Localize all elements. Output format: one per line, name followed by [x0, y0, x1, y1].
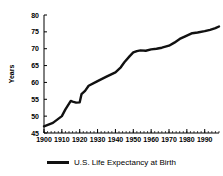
legend-line-swatch-icon	[47, 161, 69, 164]
y-tick-label: 60	[31, 79, 39, 86]
y-axis-tick-labels: 4550556065707580	[31, 12, 39, 137]
x-tick-label: 1940	[108, 136, 124, 143]
x-tick-label: 1990	[197, 136, 213, 143]
y-tick-label: 75	[31, 28, 39, 35]
x-axis-major-ticks	[44, 129, 205, 133]
y-axis-title-text: Years	[8, 65, 15, 84]
y-tick-label: 80	[31, 12, 39, 19]
x-tick-label: 1930	[90, 136, 106, 143]
legend-item-life-expectancy: U.S. Life Expectancy at Birth	[47, 158, 176, 167]
x-tick-label: 1970	[161, 136, 177, 143]
y-tick-label: 50	[31, 113, 39, 120]
chart-legend: U.S. Life Expectancy at Birth	[0, 150, 223, 174]
x-tick-label: 1960	[143, 136, 159, 143]
chart-page: Years 4550556065707580 19001910192019301…	[0, 0, 223, 176]
x-tick-label: 1980	[179, 136, 195, 143]
y-tick-label: 55	[31, 96, 39, 103]
line-chart-svg: Years 4550556065707580 19001910192019301…	[0, 0, 223, 148]
x-tick-label: 1910	[54, 136, 70, 143]
series-line-life-expectancy	[44, 26, 219, 126]
y-tick-label: 70	[31, 45, 39, 52]
legend-item-label: U.S. Life Expectancy at Birth	[74, 158, 176, 167]
x-tick-label: 1920	[72, 136, 88, 143]
y-axis-title: Years	[8, 65, 15, 84]
x-tick-label: 1900	[36, 136, 52, 143]
x-axis-tick-labels: 1900191019201930194019501960197019801990	[36, 136, 212, 143]
x-tick-label: 1950	[125, 136, 141, 143]
chart-plot-area: Years 4550556065707580 19001910192019301…	[0, 0, 223, 148]
y-tick-label: 65	[31, 62, 39, 69]
